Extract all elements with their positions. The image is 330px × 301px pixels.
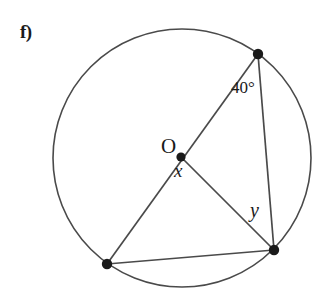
chord-c-to-b bbox=[107, 250, 274, 264]
chord-a-to-b bbox=[258, 54, 274, 250]
geometry-figure: f) O 40° x y bbox=[0, 0, 330, 301]
angle-40-label: 40° bbox=[231, 79, 255, 96]
centre-point-label: O bbox=[161, 136, 176, 157]
point-dot-a-top-right bbox=[253, 49, 263, 59]
angle-x-label: x bbox=[174, 161, 182, 180]
segment-centre-to-b bbox=[181, 157, 274, 250]
point-dot-c-bottom-left bbox=[102, 259, 112, 269]
angle-y-label: y bbox=[250, 200, 259, 220]
part-label: f) bbox=[20, 22, 32, 41]
point-dot-b-bottom-right bbox=[269, 245, 279, 255]
